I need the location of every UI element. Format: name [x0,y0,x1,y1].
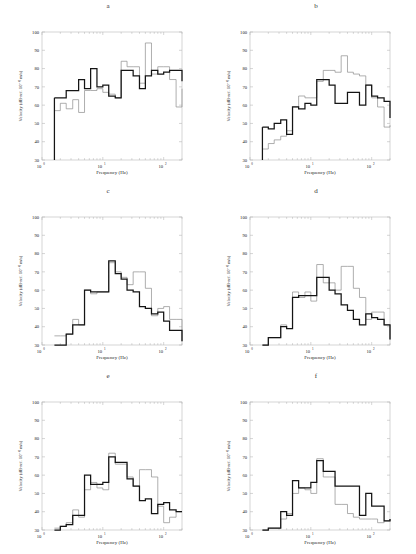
x-tick-label-exponent: 1 [312,347,314,351]
x-tick-label-base: 10 [37,534,42,539]
panel-letter-d: d [212,187,416,195]
x-tick-label-base: 10 [158,164,163,169]
x-tick-label-exponent: 1 [104,347,106,351]
y-tick-label: 30 [34,158,39,163]
x-tick-label-base: 10 [158,349,163,354]
series-thick-black-trace [262,461,390,530]
y-tick-label: 60 [242,103,247,108]
y-tick-label: 30 [34,528,39,533]
series-thin-gray-trace [54,453,182,528]
x-axis-label: Frequency (Hz) [250,355,390,360]
x-tick-label-exponent: 0 [43,347,45,351]
y-tick-label: 80 [242,66,247,71]
y-tick-label: 30 [242,343,247,348]
x-tick-label-base: 10 [37,164,42,169]
x-tick-label-exponent: 1 [104,162,106,166]
y-tick-label: 40 [34,509,39,514]
x-tick-label-base: 10 [306,164,311,169]
plot-area-c: 30405060708090100100101102 [4,199,212,372]
y-axis-label: Velocity (dB-ref. 10⁻⁹ m/s) [18,256,23,307]
y-tick-label: 70 [34,270,39,275]
x-tick-label-base: 10 [98,164,103,169]
chart-panel-f: f30405060708090100100101102Velocity (dB-… [212,372,416,554]
chart-panel-b: b30405060708090100100101102Velocity (dB-… [212,2,416,187]
x-tick-label-exponent: 2 [165,162,167,166]
series-thick-black-trace [54,261,182,345]
x-tick-label-exponent: 1 [312,162,314,166]
x-axis-label: Frequency (Hz) [42,540,182,545]
x-tick-label-exponent: 2 [373,162,375,166]
y-tick-label: 70 [242,455,247,460]
x-tick-label-base: 10 [366,349,371,354]
series-thick-black-trace [54,69,182,98]
panel-letter-c: c [4,187,212,195]
x-tick-label-base: 10 [306,349,311,354]
x-axis-label: Frequency (Hz) [42,355,182,360]
x-tick-label-base: 10 [366,164,371,169]
x-tick-label-base: 10 [245,534,250,539]
x-tick-label-exponent: 1 [312,532,314,536]
y-tick-label: 60 [242,473,247,478]
x-tick-label-exponent: 2 [165,532,167,536]
y-tick-label: 100 [240,400,248,405]
plot-area-f: 30405060708090100100101102 [212,384,416,554]
x-tick-label-base: 10 [158,534,163,539]
axes-frame [250,402,390,530]
y-tick-label: 90 [242,233,247,238]
series-thin-gray-trace [54,43,182,112]
x-tick-label-base: 10 [37,349,42,354]
y-tick-label: 90 [34,48,39,53]
y-tick-label: 70 [34,85,39,90]
series-thin-gray-trace [262,459,390,530]
y-tick-label: 80 [34,436,39,441]
y-tick-label: 100 [32,400,40,405]
y-axis-label: Velocity (dB-ref. 10⁻⁹ m/s) [18,71,23,122]
x-axis-label: Frequency (Hz) [250,540,390,545]
y-tick-label: 90 [34,233,39,238]
chart-panel-c: c30405060708090100100101102Velocity (dB-… [4,187,212,372]
y-tick-label: 60 [34,103,39,108]
y-tick-label: 100 [240,30,248,35]
y-tick-label: 50 [242,121,247,126]
x-tick-label-exponent: 1 [104,532,106,536]
chart-panel-a: a30405060708090100100101102Velocity (dB-… [4,2,212,187]
y-tick-label: 40 [34,139,39,144]
panel-letter-f: f [212,372,416,380]
y-tick-label: 70 [34,455,39,460]
y-axis-label: Velocity (dB-ref. 10⁻⁹ m/s) [226,71,231,122]
y-tick-label: 30 [34,343,39,348]
y-tick-label: 50 [242,306,247,311]
x-tick-label-exponent: 0 [251,347,253,351]
y-tick-label: 40 [242,324,247,329]
series-thick-black-trace [262,277,390,345]
y-tick-label: 80 [242,436,247,441]
axes-frame [250,32,390,160]
y-tick-label: 40 [242,509,247,514]
panel-letter-b: b [212,2,416,10]
x-tick-label-exponent: 0 [251,532,253,536]
axes-frame [250,217,390,345]
chart-panel-d: d30405060708090100100101102Velocity (dB-… [212,187,416,372]
y-tick-label: 70 [242,85,247,90]
y-tick-label: 100 [32,30,40,35]
y-tick-label: 60 [242,288,247,293]
panel-letter-a: a [4,2,212,10]
x-tick-label-exponent: 0 [43,162,45,166]
y-tick-label: 50 [242,491,247,496]
series-thick-black-trace [262,80,390,135]
plot-area-e: 30405060708090100100101102 [4,384,212,554]
y-axis-label: Velocity (dB-ref. 10⁻⁹ m/s) [226,441,231,492]
x-tick-label-exponent: 0 [43,532,45,536]
y-tick-label: 60 [34,288,39,293]
panel-letter-e: e [4,372,212,380]
y-tick-label: 100 [32,215,40,220]
series-thin-gray-trace [262,265,390,345]
figure-panel-grid: a30405060708090100100101102Velocity (dB-… [0,0,416,554]
plot-area-d: 30405060708090100100101102 [212,199,416,372]
y-tick-label: 50 [34,491,39,496]
y-tick-label: 90 [242,418,247,423]
x-tick-label-base: 10 [306,534,311,539]
axes-frame [42,402,182,530]
y-tick-label: 90 [242,48,247,53]
x-axis-label: Frequency (Hz) [250,170,390,175]
